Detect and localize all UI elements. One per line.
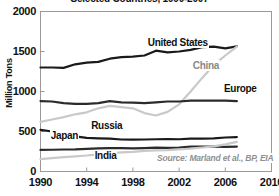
- y-axis-ticks: [41, 12, 45, 172]
- series-label-japan: Japan: [50, 130, 79, 141]
- x-tick-label: 2006: [214, 176, 237, 188]
- x-tick-label: 1998: [121, 176, 144, 188]
- series-line: [41, 101, 237, 104]
- x-tick-label: 2010: [260, 176, 279, 188]
- x-tick-label: 1990: [29, 176, 52, 188]
- emissions-line-chart: Selected Countries, 1990-2007 0500100015…: [0, 0, 279, 196]
- source-note: Source: Marland et al., BP, EIA: [156, 153, 274, 163]
- x-tick-label: 1994: [75, 176, 98, 188]
- series-label-russia: Russia: [90, 120, 123, 131]
- y-tick-label: 2000: [0, 5, 36, 17]
- y-tick-label: 500: [0, 125, 36, 137]
- plot-area: [0, 0, 279, 196]
- series-line: [41, 47, 237, 122]
- y-tick-label: 0: [0, 165, 36, 177]
- x-axis-ticks: [41, 168, 272, 172]
- y-axis-title: Million Tons: [4, 53, 14, 113]
- series-label-india: India: [94, 150, 118, 161]
- series-label-united-states: United States: [147, 37, 209, 48]
- x-tick-label: 2002: [167, 176, 190, 188]
- series-label-china: China: [192, 60, 220, 71]
- series-label-europe: Europe: [223, 83, 258, 94]
